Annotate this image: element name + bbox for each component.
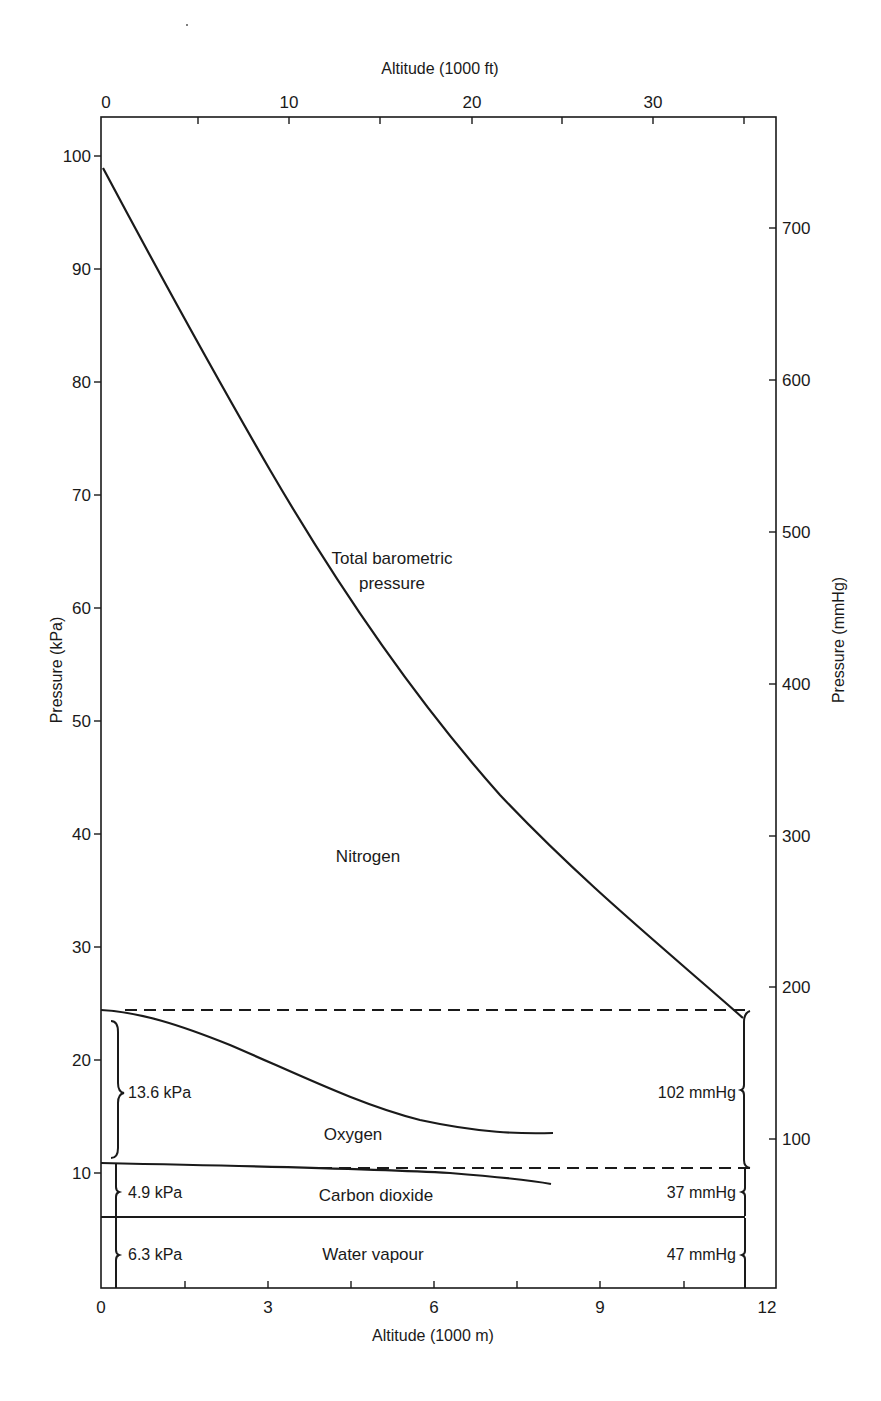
right-axis	[769, 228, 776, 1139]
y2-tick-label: 500	[782, 523, 810, 542]
y-tick-label: 60	[72, 599, 91, 618]
y2-tick-label: 600	[782, 371, 810, 390]
y-axis-title: Pressure (kPa)	[48, 617, 65, 724]
label-oxygen: Oxygen	[324, 1125, 383, 1144]
plot-frame	[101, 117, 776, 1288]
label-water-vapour: Water vapour	[322, 1245, 424, 1264]
x2-tick-label: 10	[280, 93, 299, 112]
water-mmhg-value: 47 mmHg	[667, 1246, 736, 1263]
y2-tick-label: 300	[782, 827, 810, 846]
oxygen-kpa-value: 13.6 kPa	[128, 1084, 191, 1101]
y-tick-label: 40	[72, 825, 91, 844]
label-total-pressure-line2: pressure	[359, 574, 425, 593]
y2-axis-title: Pressure (mmHg)	[830, 577, 847, 703]
co2-brace-left	[116, 1164, 119, 1216]
water-kpa-value: 6.3 kPa	[128, 1246, 182, 1263]
y-tick-label: 20	[72, 1051, 91, 1070]
total-pressure-curve	[103, 168, 743, 1018]
y-tick-label: 10	[72, 1164, 91, 1183]
x2-tick-label: 0	[101, 93, 110, 112]
co2-brace-right	[742, 1169, 745, 1216]
x2-axis-title: Altitude (1000 ft)	[381, 60, 498, 77]
left-axis	[94, 156, 101, 1173]
label-nitrogen: Nitrogen	[336, 847, 400, 866]
pressure-altitude-chart: 0 10 20 30 Altitude (1000 ft) 0 3 6 9 12…	[0, 0, 881, 1401]
speck	[186, 24, 188, 26]
oxygen-curve	[101, 1010, 553, 1133]
x-tick-label: 3	[263, 1298, 272, 1317]
y-tick-label: 90	[72, 260, 91, 279]
oxygen-brace-left	[111, 1021, 124, 1158]
y2-tick-label: 100	[782, 1130, 810, 1149]
x2-tick-label: 20	[463, 93, 482, 112]
y2-tick-label: 700	[782, 219, 810, 238]
y-tick-label: 80	[72, 373, 91, 392]
x2-tick-label: 30	[644, 93, 663, 112]
label-carbon-dioxide: Carbon dioxide	[319, 1186, 433, 1205]
label-total-pressure-line1: Total barometric	[332, 549, 453, 568]
oxygen-brace-right	[741, 1011, 750, 1168]
x-tick-label: 0	[96, 1298, 105, 1317]
x-axis-title: Altitude (1000 m)	[372, 1327, 494, 1344]
carbon-dioxide-curve	[101, 1163, 551, 1184]
y-tick-label: 70	[72, 486, 91, 505]
y-tick-label: 100	[63, 147, 91, 166]
co2-mmhg-value: 37 mmHg	[667, 1184, 736, 1201]
top-axis	[198, 117, 744, 124]
y-tick-label: 50	[72, 712, 91, 731]
x-tick-label: 12	[758, 1298, 777, 1317]
bottom-axis	[185, 1281, 684, 1288]
y-tick-label: 30	[72, 938, 91, 957]
water-brace-left	[116, 1218, 119, 1288]
x-tick-label: 9	[595, 1298, 604, 1317]
x-tick-label: 6	[429, 1298, 438, 1317]
y2-tick-label: 200	[782, 978, 810, 997]
co2-kpa-value: 4.9 kPa	[128, 1184, 182, 1201]
y2-tick-label: 400	[782, 675, 810, 694]
water-brace-right	[742, 1218, 745, 1288]
oxygen-mmhg-value: 102 mmHg	[658, 1084, 736, 1101]
